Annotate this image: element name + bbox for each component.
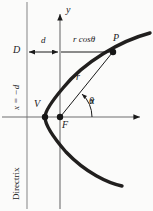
point-v-label: V: [34, 99, 40, 109]
radius-label: r: [76, 72, 80, 82]
distance-d-label: d: [41, 36, 46, 45]
r-cos-theta-label: r cosθ: [73, 35, 95, 44]
directrix-equation-label: x = −d: [12, 85, 21, 110]
point-p-label: P: [113, 33, 119, 43]
theta-label: θ: [89, 96, 94, 106]
parabola-curve: [45, 33, 150, 186]
y-axis-label: y: [66, 5, 70, 15]
focal-radius-line: [61, 53, 112, 116]
vertex-point: [42, 114, 48, 120]
figure-canvas: [0, 0, 153, 211]
point-f-label: F: [62, 120, 68, 130]
point-d-label: D: [13, 45, 20, 55]
point-p-marker: [110, 49, 116, 55]
parabola-figure: x y P F V D d r cosθ r θ x = −d Directri…: [0, 0, 153, 211]
directrix-name-label: Directrix: [12, 168, 21, 200]
